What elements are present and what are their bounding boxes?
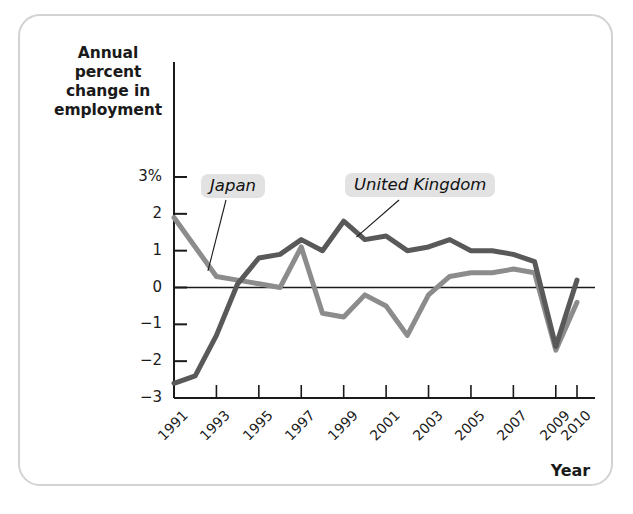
y-tick-label: −2 (122, 351, 162, 369)
y-tick-label: 2 (122, 204, 162, 222)
series-label-united-kingdom: United Kingdom (345, 173, 495, 197)
y-tick-label: −3 (122, 388, 162, 406)
y-tick-label: 1 (122, 241, 162, 259)
chart-figure: Annual percent change in employment Year… (18, 14, 613, 486)
y-tick-label: 3% (122, 167, 162, 185)
series-label-japan: Japan (201, 174, 265, 198)
chart-series (174, 218, 577, 384)
y-tick-label: −1 (122, 314, 162, 332)
y-tick-label: 0 (122, 278, 162, 296)
chart-axes (174, 62, 595, 398)
